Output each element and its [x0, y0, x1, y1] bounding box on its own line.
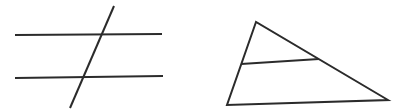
- midsegment-line: [241, 59, 319, 64]
- transversal-line: [70, 6, 114, 108]
- geometry-canvas: [0, 0, 401, 112]
- parallel-line-top: [15, 34, 162, 35]
- triangle-figure: [227, 22, 388, 105]
- parallel-line-bottom: [15, 76, 163, 78]
- page: [0, 0, 401, 112]
- parallel-lines-figure: [15, 6, 163, 108]
